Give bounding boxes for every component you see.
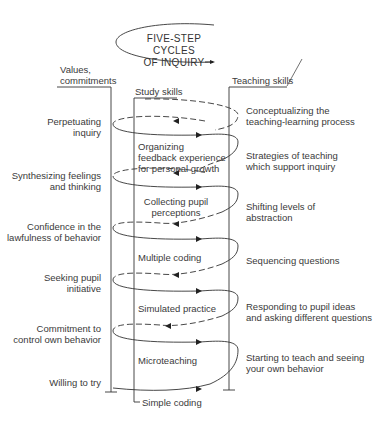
study-item: Microteaching <box>138 355 197 366</box>
value-item-line: Seeking pupil <box>44 272 101 283</box>
teaching-item-line: which support inquiry <box>246 161 338 172</box>
study-item-line: perceptions <box>138 207 214 218</box>
study-item: Simple coding <box>142 397 202 408</box>
study-item-line: Organizing <box>138 141 226 152</box>
value-item-line: Synthesizing feelings <box>12 170 101 181</box>
study-item-line: for personal growth <box>138 163 226 174</box>
value-item-line: and thinking <box>12 181 101 192</box>
value-item-line: control own behavior <box>13 334 101 345</box>
value-item: Confidence in the lawfulness of behavior <box>7 221 101 243</box>
study-item-line: Collecting pupil <box>138 196 214 207</box>
value-item: Synthesizing feelings and thinking <box>12 170 101 192</box>
value-item: Commitment to control own behavior <box>13 323 101 345</box>
value-item-line: initiative <box>44 283 101 294</box>
title-line-2: OF INQUIRY <box>128 57 220 69</box>
diagram-title: FIVE-STEP CYCLES OF INQUIRY <box>128 33 220 69</box>
teaching-skills-header: Teaching skills <box>232 75 293 86</box>
teaching-item-line: Starting to teach and seeing <box>246 352 364 363</box>
values-header-line-1: Values, <box>60 64 116 75</box>
value-item-line: Willing to try <box>49 377 101 388</box>
value-item-line: Confidence in the <box>7 221 101 232</box>
value-item: Perpetuating inquiry <box>47 116 101 138</box>
teaching-item: Shifting levels of abstraction <box>246 201 315 223</box>
study-skills-header: Study skills <box>135 86 183 97</box>
value-item-line: Commitment to <box>13 323 101 334</box>
study-item: Simulated practice <box>138 303 216 314</box>
teaching-item: Responding to pupil ideas and asking dif… <box>246 301 372 323</box>
values-header: Values, commitments <box>60 64 116 86</box>
teaching-item-line: Strategies of teaching <box>246 150 338 161</box>
value-item-line: lawfulness of behavior <box>7 232 101 243</box>
value-item: Willing to try <box>49 377 101 388</box>
teaching-item-line: Conceptualizing the <box>246 105 355 116</box>
teaching-item: Starting to teach and seeing your own be… <box>246 352 364 374</box>
teaching-item-line: Shifting levels of <box>246 201 315 212</box>
teaching-item: Conceptualizing the teaching-learning pr… <box>246 105 355 127</box>
teaching-item-line: and asking different questions <box>246 312 372 323</box>
teaching-axis-line <box>229 87 287 390</box>
study-item: Collecting pupil perceptions <box>138 196 214 218</box>
study-item-line: feedback experience <box>138 152 226 163</box>
title-line-1: FIVE-STEP CYCLES <box>128 33 220 57</box>
teaching-item: Strategies of teaching which support inq… <box>246 150 338 172</box>
value-item: Seeking pupil initiative <box>44 272 101 294</box>
teaching-item-line: Responding to pupil ideas <box>246 301 372 312</box>
teaching-item-line: your own behavior <box>246 363 364 374</box>
study-item: Multiple coding <box>138 252 201 263</box>
value-item-line: inquiry <box>47 127 101 138</box>
study-item: Organizing feedback experience for perso… <box>138 141 226 174</box>
value-item-line: Perpetuating <box>47 116 101 127</box>
teaching-item-line: teaching-learning process <box>246 116 355 127</box>
teaching-item-line: abstraction <box>246 212 315 223</box>
values-header-line-2: commitments <box>60 75 116 86</box>
teaching-item: Sequencing questions <box>246 255 340 266</box>
